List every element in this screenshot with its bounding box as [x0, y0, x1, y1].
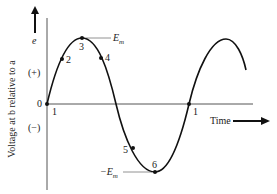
- point-2-dot: [60, 57, 64, 61]
- point-1a-dot: [45, 102, 49, 106]
- point-6-label: 6: [152, 160, 157, 170]
- point-4-label: 4: [105, 53, 110, 63]
- waveform-plot: [0, 0, 277, 194]
- time-arrowhead-icon: [261, 117, 270, 125]
- point-1b-dot: [187, 102, 191, 106]
- point-4-dot: [99, 56, 103, 60]
- point-2-label: 2: [66, 55, 71, 65]
- time-label: Time: [210, 116, 231, 126]
- point-1a-label: 1: [52, 107, 57, 117]
- point-3-label: 3: [79, 42, 84, 52]
- e-arrowhead-icon: [31, 6, 39, 14]
- point-3-dot: [80, 36, 84, 40]
- point-1b-label: 1: [193, 107, 198, 117]
- neg-em-label: −Em: [100, 167, 118, 180]
- origin-label: 0: [37, 99, 42, 109]
- point-6-dot: [153, 170, 157, 174]
- point-5-dot: [131, 146, 135, 150]
- positive-label: (+): [28, 68, 40, 78]
- sine-wave-figure: Voltage at b relative to a e (+) 0 (−) 1…: [0, 0, 277, 194]
- sine-curve: [47, 38, 246, 172]
- negative-label: (−): [28, 123, 40, 133]
- e-symbol: e: [32, 36, 36, 46]
- point-5-label: 5: [123, 145, 128, 155]
- em-label: Em: [113, 33, 124, 46]
- y-axis-label: Voltage at b relative to a: [4, 34, 18, 184]
